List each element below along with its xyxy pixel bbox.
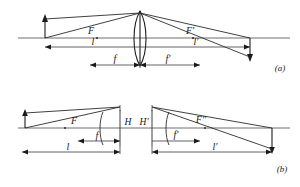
label-object-distance-b: l	[67, 141, 70, 152]
label-image-distance-a: l'	[194, 36, 200, 47]
label-rear-focal-b: F''	[195, 114, 207, 125]
panel-b: F F'' H H' f f' l l' (b)	[18, 105, 290, 174]
optics-figure: F F' l l' f f' (a)	[0, 0, 300, 187]
front-focal-point-b	[64, 127, 66, 129]
diagram-canvas: F F' l l' f f' (a)	[0, 0, 300, 187]
label-rear-focal-a: F'	[185, 25, 195, 36]
label-front-focal-length-a: f	[114, 53, 118, 64]
image-arrow-b	[269, 128, 275, 154]
label-rear-focal-length-a: f'	[166, 53, 172, 64]
panel-label-a: (a)	[275, 63, 286, 73]
label-principal-plane-hprime: H'	[139, 117, 150, 127]
rear-surface-b	[166, 112, 169, 145]
label-image-distance-b: l'	[213, 141, 219, 152]
front-focal-point-a	[96, 37, 98, 39]
ray-bundle-b	[25, 105, 272, 149]
panel-label-b: (b)	[277, 164, 288, 174]
label-principal-plane-h: H	[124, 117, 133, 127]
ray-bundle-a	[45, 13, 250, 57]
rear-focal-point-b	[204, 127, 206, 129]
dimension-f-b	[78, 139, 120, 144]
front-surface-b	[100, 112, 103, 145]
label-front-focal-b: F	[70, 115, 78, 126]
biconvex-lens-a	[134, 11, 146, 66]
object-arrow-a	[42, 14, 48, 38]
image-arrow-a	[247, 38, 253, 62]
label-front-focal-length-b: f	[96, 130, 100, 141]
object-arrow-b	[22, 109, 28, 128]
label-object-distance-a: l	[92, 36, 95, 47]
label-rear-focal-length-b: f'	[174, 129, 180, 140]
dimension-l-b	[22, 150, 120, 155]
label-front-focal-a: F	[87, 25, 95, 36]
panel-a: F F' l l' f f' (a)	[18, 11, 290, 73]
